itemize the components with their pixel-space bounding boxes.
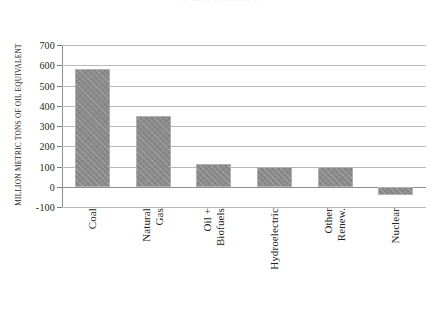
y-tick-label: 200 xyxy=(39,141,55,152)
bar xyxy=(75,69,110,186)
x-axis-label: OtherRenew. xyxy=(305,208,365,320)
x-axis-label: Nuclear xyxy=(366,208,426,320)
x-axis-label-line: Gas xyxy=(154,208,165,225)
x-axis-label: Oil +Biofuels xyxy=(184,208,244,320)
y-tick-label: 300 xyxy=(39,121,55,132)
y-axis-title: MILLION METRIC TONS OF OIL EQUIVALENT xyxy=(14,25,23,225)
y-tick-label: 100 xyxy=(39,161,55,172)
x-axis-label: NaturalGas xyxy=(123,208,183,320)
x-axis-label-line: Hydroelectric xyxy=(269,208,280,270)
x-axis-labels: CoalNaturalGasOil +BiofuelsHydroelectric… xyxy=(62,208,426,323)
bar xyxy=(136,116,171,187)
y-tick-label: 400 xyxy=(39,100,55,111)
x-axis-label: Hydroelectric xyxy=(244,208,304,320)
y-tick-label: 0 xyxy=(50,181,55,192)
x-axis-label-line: Oil + xyxy=(202,208,213,232)
x-axis-label-line: Biofuels xyxy=(215,208,226,246)
x-axis-label-line: Natural xyxy=(141,208,152,242)
bar xyxy=(257,167,292,187)
bar-series xyxy=(62,45,426,207)
chart-figure: … …… ………… … MILLION METRIC TONS OF OIL E… xyxy=(0,0,443,323)
y-tick-label: 600 xyxy=(39,60,55,71)
x-axis-label-line: Other xyxy=(323,208,334,234)
bar xyxy=(196,164,231,187)
x-axis-label-line: Renew. xyxy=(336,208,347,241)
bar xyxy=(318,167,353,186)
x-axis-label: Coal xyxy=(62,208,122,320)
y-tick-label: 500 xyxy=(39,80,55,91)
x-axis-label-line: Nuclear xyxy=(390,208,401,244)
bar xyxy=(378,187,413,195)
plot-area: 7006005004003002001000-100 xyxy=(62,45,426,207)
cropped-title-fragment: … …… ………… … xyxy=(0,0,443,3)
x-axis-label-line: Coal xyxy=(87,208,98,229)
y-tick-label: -100 xyxy=(36,202,55,213)
y-tick-label: 700 xyxy=(39,40,55,51)
